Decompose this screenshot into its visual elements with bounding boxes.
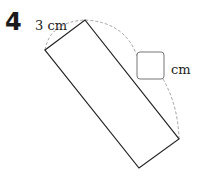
problem-number: 4 [5, 8, 22, 36]
rectangle-shape [45, 20, 179, 168]
long-side-dimension-arc-upper [85, 20, 137, 56]
long-side-dimension-arc-lower [163, 79, 179, 139]
answer-unit-label: cm [171, 62, 191, 77]
answer-box[interactable] [137, 52, 164, 79]
diagram: 4 3 cm cm [0, 0, 200, 180]
short-side-label: 3 cm [35, 18, 67, 33]
